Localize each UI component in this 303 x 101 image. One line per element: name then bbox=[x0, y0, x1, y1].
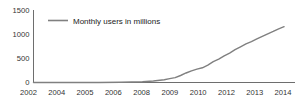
y-tick-label: 1000 bbox=[13, 30, 30, 39]
x-tick-label: 2012 bbox=[218, 88, 235, 97]
x-tick-label: 2002 bbox=[20, 88, 37, 97]
y-tick-label: 1500 bbox=[13, 6, 30, 15]
x-tick-label: 2005 bbox=[77, 88, 94, 97]
x-tick-label: 2006 bbox=[105, 88, 122, 97]
x-tick-label: 2009 bbox=[161, 88, 178, 97]
chart-canvas: 050010001500 200220042005200620082009201… bbox=[0, 0, 303, 101]
series-line-monthly-users bbox=[34, 27, 285, 83]
y-axis-tick-labels: 050010001500 bbox=[13, 6, 30, 88]
x-tick-label: 2010 bbox=[190, 88, 207, 97]
y-tick-label: 0 bbox=[25, 78, 29, 87]
y-tick-label: 500 bbox=[17, 54, 30, 63]
x-tick-label: 2008 bbox=[133, 88, 150, 97]
legend-label-monthly-users: Monthly users in millions bbox=[73, 17, 160, 26]
x-tick-label: 2013 bbox=[246, 88, 263, 97]
line-chart: 050010001500 200220042005200620082009201… bbox=[0, 0, 303, 101]
x-tick-label: 2014 bbox=[275, 88, 292, 97]
x-tick-label: 2004 bbox=[48, 88, 65, 97]
x-axis-tick-labels: 2002200420052006200820092010201220132014 bbox=[20, 88, 291, 97]
